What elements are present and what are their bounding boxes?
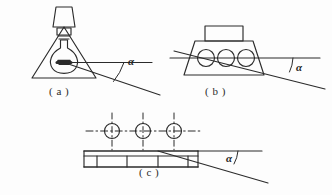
inclined-line-a <box>64 63 160 96</box>
figure-canvas: ( a ) ( b ) ( c ) α α α <box>0 0 332 195</box>
housing-top-box <box>205 26 243 41</box>
lamp-shade-top <box>53 7 75 27</box>
figure-label-b: ( b ) <box>205 85 226 97</box>
diagram-svg <box>0 0 332 195</box>
inclined-line-b <box>174 51 325 89</box>
figure-label-a: ( a ) <box>49 85 69 97</box>
angle-symbol-b: α <box>296 61 302 73</box>
figure-label-c: ( c ) <box>139 166 159 178</box>
figure-c-group <box>84 113 268 183</box>
angle-symbol-a: α <box>128 55 134 67</box>
angle-symbol-c: α <box>226 152 232 164</box>
lamp-bulb <box>50 40 77 73</box>
angle-arc-c <box>234 151 238 164</box>
angle-arc-a <box>114 63 125 82</box>
figure-b-group <box>170 26 325 89</box>
figure-a-group <box>32 7 160 95</box>
angle-arc-b <box>290 58 294 72</box>
